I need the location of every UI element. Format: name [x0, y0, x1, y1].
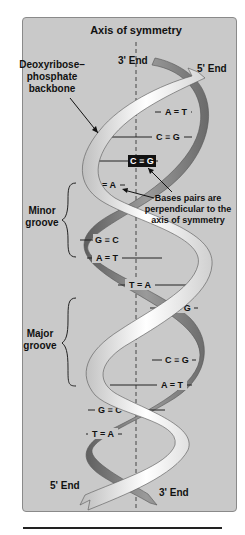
minor-groove-label: Minor groove — [25, 205, 59, 228]
base-pair-label: A = T — [96, 253, 118, 263]
backbone-pointer-arrow — [70, 98, 98, 133]
base-pair-label: T = A — [92, 429, 114, 439]
base-pair-label: T = A — [129, 280, 151, 290]
axis-of-symmetry-title: Axis of symmetry — [90, 24, 183, 36]
svg-text:groove: groove — [23, 340, 57, 351]
svg-text:phosphate: phosphate — [27, 71, 78, 82]
top-5-prime-end-label: 5' End — [197, 63, 227, 74]
major-groove-brace — [62, 298, 76, 386]
svg-text:axis of symmetry: axis of symmetry — [151, 215, 225, 225]
dna-helix-diagram: A = T C ≡ G C ≡ G T = A G ≡ C A = T T = … — [0, 0, 245, 535]
bottom-5-prime-end-label: 5' End — [50, 480, 80, 491]
svg-text:Deoxyribose–: Deoxyribose– — [19, 59, 85, 70]
base-pair-label: A = T — [161, 380, 183, 390]
base-pair-label: C ≡ G — [165, 355, 189, 365]
svg-text:Major: Major — [27, 328, 54, 339]
bottom-divider — [23, 527, 222, 529]
perpendicular-note: Bases pairs are perpendicular to the axi… — [145, 193, 232, 225]
base-pair-label: A = T — [165, 107, 187, 117]
svg-text:backbone: backbone — [29, 83, 76, 94]
base-pair-label: C ≡ G — [156, 132, 180, 142]
backbone-label: Deoxyribose– phosphate backbone — [19, 59, 85, 94]
svg-text:groove: groove — [25, 217, 59, 228]
bottom-3-prime-end-label: 3' End — [159, 487, 189, 498]
svg-text:Bases pairs are: Bases pairs are — [155, 193, 222, 203]
major-groove-label: Major groove — [23, 328, 57, 351]
base-pair-label: G ≡ C — [95, 235, 119, 245]
base-pair-label-highlighted: C ≡ G — [130, 156, 154, 166]
svg-text:perpendicular to the: perpendicular to the — [145, 204, 232, 214]
svg-text:Minor: Minor — [28, 205, 55, 216]
top-3-prime-end-label: 3' End — [118, 55, 148, 66]
minor-groove-brace — [62, 183, 76, 257]
